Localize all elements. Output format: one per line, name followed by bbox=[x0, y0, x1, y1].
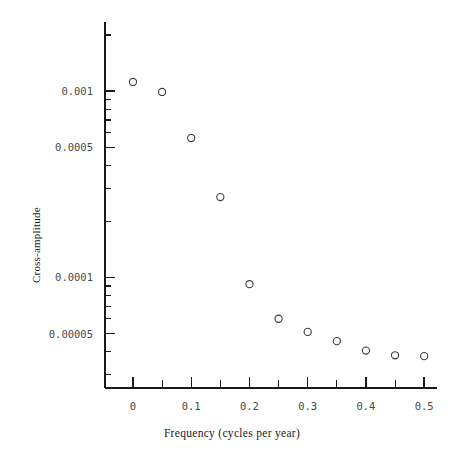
x-tick-label: 0 bbox=[130, 400, 136, 412]
cross-amplitude-scatter-chart bbox=[0, 0, 464, 457]
data-point bbox=[129, 78, 136, 85]
y-tick-label: 0.00005 bbox=[0, 328, 93, 340]
data-point bbox=[421, 353, 428, 360]
chart-canvas bbox=[0, 0, 464, 457]
data-point bbox=[333, 338, 340, 345]
data-series-cross-amplitude bbox=[129, 78, 427, 359]
data-point bbox=[362, 347, 369, 354]
y-tick-label: 0.0001 bbox=[0, 271, 93, 283]
x-axis-label: Frequency (cycles per year) bbox=[0, 427, 464, 439]
data-point bbox=[275, 315, 282, 322]
x-tick-label: 0.4 bbox=[356, 400, 375, 412]
data-point bbox=[246, 281, 253, 288]
y-tick-label: 0.001 bbox=[0, 85, 93, 97]
data-point bbox=[188, 134, 195, 141]
x-tick-label: 0.2 bbox=[240, 400, 259, 412]
data-point bbox=[304, 328, 311, 335]
x-tick-label: 0.3 bbox=[298, 400, 317, 412]
data-point bbox=[158, 88, 165, 95]
data-point bbox=[391, 352, 398, 359]
x-tick-label: 0.5 bbox=[415, 400, 434, 412]
y-tick-label: 0.0005 bbox=[0, 141, 93, 153]
x-tick-label: 0.1 bbox=[182, 400, 201, 412]
data-point bbox=[217, 193, 224, 200]
